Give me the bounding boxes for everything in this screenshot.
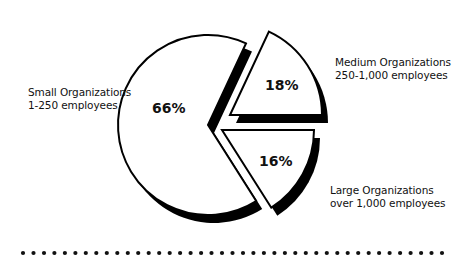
medium-pct-label: 18% [265, 77, 299, 93]
divider-dot [199, 251, 203, 255]
divider-dot [377, 251, 381, 255]
divider-dot [230, 251, 234, 255]
divider-dot [209, 251, 213, 255]
divider-dot [304, 251, 308, 255]
divider-dot [356, 251, 360, 255]
divider-dot [63, 251, 67, 255]
divider-dot [440, 251, 444, 255]
divider-dot [272, 251, 276, 255]
small-pct-label: 66% [152, 100, 186, 116]
small-slice[interactable] [118, 35, 256, 215]
divider-dot [168, 251, 172, 255]
divider-dot [251, 251, 255, 255]
medium-org-label: Medium Organizations 250-1,000 employees [335, 56, 451, 82]
divider-dot [178, 251, 182, 255]
large-org-title: Large Organizations [330, 184, 445, 197]
medium-org-title: Medium Organizations [335, 56, 451, 69]
large-pct-label: 16% [259, 153, 293, 169]
divider-dot [42, 251, 46, 255]
dotted-divider [21, 251, 444, 255]
divider-dot [325, 251, 329, 255]
divider-dot [105, 251, 109, 255]
divider-dot [429, 251, 433, 255]
divider-dot [367, 251, 371, 255]
divider-dot [335, 251, 339, 255]
divider-dot [115, 251, 119, 255]
divider-dot [21, 251, 25, 255]
divider-dot [314, 251, 318, 255]
divider-dot [52, 251, 56, 255]
medium-org-range: 250-1,000 employees [335, 69, 451, 82]
divider-dot [136, 251, 140, 255]
divider-dot [346, 251, 350, 255]
large-org-range: over 1,000 employees [330, 197, 445, 210]
divider-dot [241, 251, 245, 255]
divider-dot [73, 251, 77, 255]
divider-dot [31, 251, 35, 255]
divider-dot [398, 251, 402, 255]
divider-dot [262, 251, 266, 255]
divider-dot [220, 251, 224, 255]
divider-dot [147, 251, 151, 255]
divider-dot [189, 251, 193, 255]
divider-dot [419, 251, 423, 255]
divider-dot [126, 251, 130, 255]
divider-dot [84, 251, 88, 255]
pie-chart: 66% 18% 16% [0, 0, 465, 262]
large-org-label: Large Organizations over 1,000 employees [330, 184, 445, 210]
slices [118, 32, 322, 215]
small-org-title: Small Organizations [28, 86, 131, 99]
small-org-label: Small Organizations 1-250 employees [28, 86, 131, 112]
divider-dot [157, 251, 161, 255]
divider-dot [409, 251, 413, 255]
divider-dot [283, 251, 287, 255]
small-org-range: 1-250 employees [28, 99, 131, 112]
divider-dot [388, 251, 392, 255]
divider-dot [293, 251, 297, 255]
divider-dot [94, 251, 98, 255]
